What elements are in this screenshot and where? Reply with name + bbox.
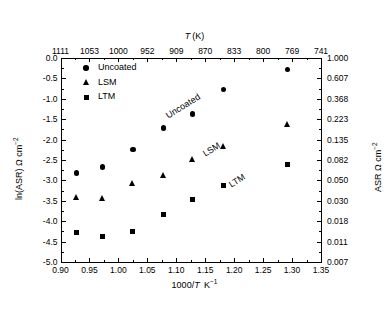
x-tick-major xyxy=(292,258,293,262)
x2-tick-label: 800 xyxy=(249,46,277,56)
data-point-ltm xyxy=(161,212,166,217)
chart-annotation-lsm: LSM xyxy=(201,140,222,158)
y-tick-label: -3.5 xyxy=(28,196,58,206)
x-tick-major xyxy=(147,258,148,262)
y-tick-label: -2.0 xyxy=(28,135,58,145)
y2-tick-label: 0.007 xyxy=(327,257,359,267)
data-point-uncoated xyxy=(221,87,226,92)
x-tick-label: 0.95 xyxy=(78,265,100,275)
data-point-uncoated xyxy=(285,67,290,72)
x-tick-minor xyxy=(307,260,308,262)
y-tick-minor xyxy=(62,89,64,90)
y2-tick-minor xyxy=(319,252,321,253)
x2-tick-label: 952 xyxy=(133,46,161,56)
y2-tick-major xyxy=(317,160,321,161)
y2-tick-minor xyxy=(319,191,321,192)
legend-label-ltm: LTM xyxy=(98,91,115,101)
x2-tick-major xyxy=(263,58,264,62)
axis-spine-bottom xyxy=(61,262,323,263)
y-tick-minor xyxy=(62,109,64,110)
x-tick-label: 1.20 xyxy=(223,265,245,275)
y2-tick-label: 0.082 xyxy=(327,155,359,165)
y-tick-label: -2.5 xyxy=(28,155,58,165)
x-axis-title: 1000/T K−1 xyxy=(0,280,389,290)
y2-tick-label: 0.050 xyxy=(327,175,359,185)
x2-tick-minor xyxy=(249,58,250,60)
data-point-ltm xyxy=(100,234,105,239)
y2-tick-label: 0.368 xyxy=(327,94,359,104)
y-tick-major xyxy=(62,58,66,59)
y2-tick-minor xyxy=(319,170,321,171)
x-tick-major xyxy=(176,258,177,262)
x-tick-label: 1.30 xyxy=(281,265,303,275)
y2-tick-label: 1.000 xyxy=(327,53,359,63)
x-tick-major xyxy=(89,258,90,262)
x2-tick-label: 909 xyxy=(162,46,190,56)
x2-tick-major xyxy=(292,58,293,62)
y-tick-minor xyxy=(62,170,64,171)
x2-tick-minor xyxy=(104,58,105,60)
data-point-uncoated xyxy=(161,125,166,130)
y-tick-major xyxy=(62,221,66,222)
y2-tick-label: 0.018 xyxy=(327,216,359,226)
x-tick-minor xyxy=(191,260,192,262)
y2-tick-major xyxy=(317,262,321,263)
y-tick-major xyxy=(62,262,66,263)
x-tick-label: 1.15 xyxy=(194,265,216,275)
x-tick-major xyxy=(234,258,235,262)
x-tick-major xyxy=(321,258,322,262)
y2-tick-label: 0.607 xyxy=(327,73,359,83)
x2-tick-label: 870 xyxy=(191,46,219,56)
data-point-lsm xyxy=(189,156,195,162)
x-tick-minor xyxy=(104,260,105,262)
y2-tick-label: 0.011 xyxy=(327,237,359,247)
y2-tick-minor xyxy=(319,150,321,151)
y-tick-major xyxy=(62,78,66,79)
y-tick-label: -4.0 xyxy=(28,216,58,226)
x2-tick-label: 1053 xyxy=(75,46,103,56)
data-point-lsm xyxy=(99,195,105,201)
y2-tick-major xyxy=(317,119,321,120)
x2-tick-major xyxy=(147,58,148,62)
legend-marker-uncoated xyxy=(83,65,88,70)
y2-tick-major xyxy=(317,242,321,243)
x2-tick-minor xyxy=(162,58,163,60)
y2-tick-major xyxy=(317,221,321,222)
y-tick-minor xyxy=(62,252,64,253)
data-point-uncoated xyxy=(190,111,195,116)
x2-tick-minor xyxy=(307,58,308,60)
legend-label-uncoated: Uncoated xyxy=(98,62,137,72)
y2-tick-minor xyxy=(319,129,321,130)
y-tick-major xyxy=(62,160,66,161)
y2-tick-major xyxy=(317,78,321,79)
data-point-ltm xyxy=(130,229,135,234)
data-point-ltm xyxy=(221,183,226,188)
x-tick-minor xyxy=(249,260,250,262)
y-tick-major xyxy=(62,99,66,100)
data-point-lsm xyxy=(129,180,135,186)
data-point-uncoated xyxy=(130,147,135,152)
x2-tick-minor xyxy=(220,58,221,60)
y-tick-minor xyxy=(62,191,64,192)
y-tick-minor xyxy=(62,129,64,130)
x-tick-label: 1.00 xyxy=(107,265,129,275)
data-point-uncoated xyxy=(74,170,79,175)
x2-tick-major xyxy=(89,58,90,62)
y-tick-major xyxy=(62,201,66,202)
x2-tick-major xyxy=(176,58,177,62)
data-point-uncoated xyxy=(100,164,105,169)
y2-tick-label: 0.223 xyxy=(327,114,359,124)
y2-tick-minor xyxy=(319,211,321,212)
x2-tick-minor xyxy=(278,58,279,60)
y-tick-major xyxy=(62,119,66,120)
data-point-ltm xyxy=(285,162,290,167)
x2-axis-title: T (K) xyxy=(0,31,389,41)
y2-tick-minor xyxy=(319,89,321,90)
x-tick-minor xyxy=(278,260,279,262)
y-tick-minor xyxy=(62,68,64,69)
y-tick-label: -0.5 xyxy=(28,73,58,83)
y-tick-label: -3.0 xyxy=(28,175,58,185)
x2-tick-label: 769 xyxy=(278,46,306,56)
data-point-ltm xyxy=(74,230,79,235)
y-tick-label: 0.0 xyxy=(28,53,58,63)
